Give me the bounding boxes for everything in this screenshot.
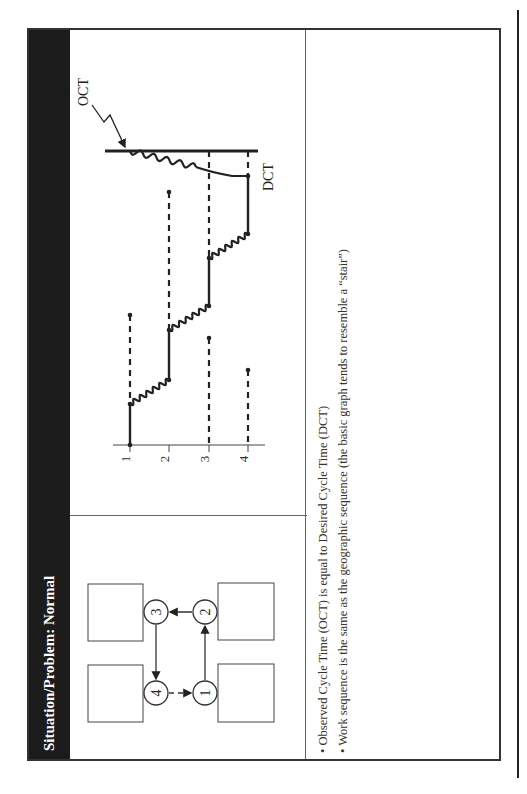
workstation-box	[88, 665, 143, 722]
station-circle: 3	[144, 600, 168, 624]
x-tick-label: 4	[236, 455, 251, 462]
station-circle: 4	[144, 681, 168, 705]
rotated-page: Situation/Problem: Normal 1234 1234OCTDC…	[0, 0, 527, 794]
x-tick-label: 2	[157, 456, 172, 463]
bullet-item: Work sequence is the same as the geograp…	[333, 40, 353, 753]
data-point	[167, 378, 172, 383]
data-point	[128, 313, 133, 318]
row-divider	[305, 30, 306, 759]
svg-text:3: 3	[149, 609, 164, 616]
data-point	[246, 232, 251, 237]
layout-diagram: 1234	[70, 516, 305, 759]
oct-label: OCT	[76, 78, 91, 106]
data-point	[246, 368, 251, 373]
work-element-trace	[209, 233, 248, 259]
work-element-trace	[130, 150, 196, 167]
data-point	[207, 304, 212, 309]
stair-graph: 1234OCTDCT	[70, 29, 305, 515]
workstation-box	[218, 583, 274, 640]
notes: Observed Cycle Time (OCT) is equal to De…	[313, 40, 353, 753]
page-edge-rule	[517, 10, 519, 778]
x-tick-label: 3	[197, 456, 212, 463]
work-element-trace	[130, 379, 169, 405]
x-tick-label: 1	[118, 456, 133, 463]
data-point	[167, 190, 172, 195]
workstation-box	[88, 584, 143, 641]
bullet-item: Observed Cycle Time (OCT) is equal to De…	[313, 40, 333, 753]
station-circle: 1	[193, 681, 217, 705]
oct-pointer-arrow	[92, 105, 125, 147]
svg-text:4: 4	[149, 690, 164, 697]
data-point	[207, 336, 212, 341]
worksheet-frame: Situation/Problem: Normal 1234 1234OCTDC…	[27, 28, 501, 761]
workstation-box	[218, 664, 274, 722]
page-title: Situation/Problem: Normal	[29, 30, 70, 759]
svg-text:1: 1	[198, 690, 213, 697]
column-divider	[70, 515, 307, 516]
work-element-trace	[169, 305, 209, 331]
svg-text:2: 2	[198, 609, 213, 616]
station-circle: 2	[193, 600, 217, 624]
data-point	[128, 443, 133, 448]
dct-label: DCT	[261, 163, 276, 191]
